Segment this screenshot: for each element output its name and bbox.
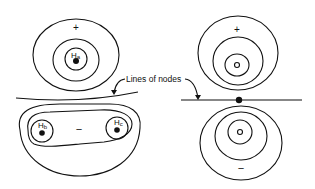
lines-of-nodes-annotation: Lines of nodes — [111, 74, 201, 100]
label-hc: Hc — [114, 118, 123, 127]
center-point — [235, 63, 240, 68]
inner-contour — [225, 54, 249, 76]
left-bottom-lobe: Hb Hc − — [19, 104, 140, 176]
nucleus-right — [236, 97, 242, 103]
orbital-diagram: + Ha Hb Hc − Lines of nodes + — [0, 0, 315, 189]
label-hb: Hb — [38, 121, 48, 130]
center-point — [238, 130, 243, 135]
middle-contour — [215, 112, 267, 160]
right-bottom-lobe: − — [200, 106, 282, 180]
minus-sign: − — [76, 123, 82, 135]
annotation-label: Lines of nodes — [126, 74, 181, 84]
left-node-line — [16, 92, 138, 100]
inner-contour — [228, 120, 252, 144]
left-arrowhead-icon — [111, 90, 117, 95]
left-top-lobe: + Ha — [33, 19, 119, 91]
minus-sign: − — [238, 162, 244, 174]
nucleus-hc — [114, 127, 120, 133]
nucleus-hb — [39, 130, 45, 136]
plus-sign: + — [73, 22, 79, 33]
right-arrowhead-icon — [195, 95, 201, 100]
outer-contour — [19, 104, 140, 176]
middle-contour — [213, 37, 263, 85]
label-ha: Ha — [71, 51, 81, 60]
plus-sign: + — [234, 24, 240, 35]
right-top-lobe: + — [198, 16, 278, 90]
